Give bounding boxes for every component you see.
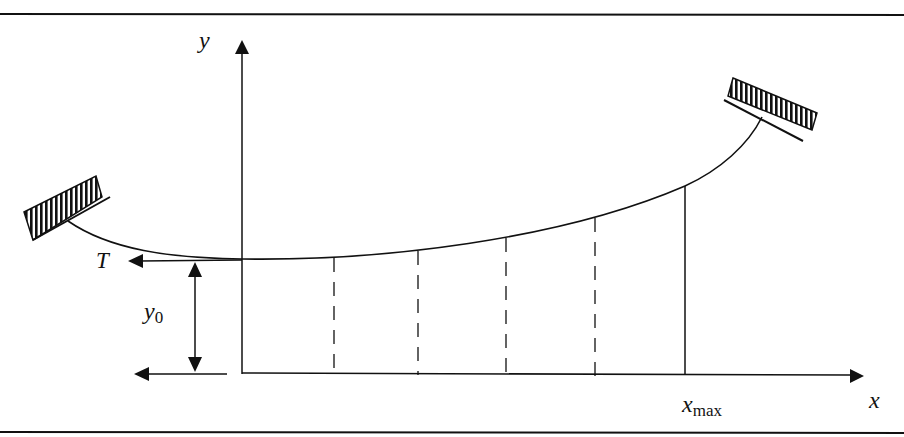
xmax-label: xmax: [681, 391, 722, 420]
y0-up-arrowhead-icon: [188, 262, 202, 277]
tension-arrowhead-icon: [128, 254, 143, 268]
catenary-diagram: y x T y0 xmax: [0, 0, 904, 437]
xmax-label-sub: max: [693, 401, 723, 420]
x-axis-arrowhead-icon: [850, 369, 864, 383]
y0-label: y0: [142, 298, 163, 327]
x-axis: [242, 369, 864, 383]
frame-bottom-line: [0, 432, 904, 433]
y-axis-label: y: [197, 27, 210, 53]
y0-label-sub: 0: [155, 308, 164, 327]
y0-down-arrowhead-icon: [188, 357, 202, 372]
y0-dimension-arrow: [188, 262, 202, 372]
y-axis: [235, 40, 249, 374]
cable-curve: [68, 117, 762, 259]
frame-top-line: [0, 14, 904, 15]
tension-label: T: [96, 248, 111, 273]
y-axis-arrowhead-icon: [235, 40, 249, 54]
left-support-clamp: [24, 176, 110, 240]
baseline-arrowhead-icon: [134, 367, 149, 381]
xmax-label-main: x: [681, 391, 693, 417]
x-axis-label: x: [868, 387, 880, 413]
y0-label-main: y: [142, 298, 155, 324]
dashed-ordinates: [334, 218, 595, 376]
baseline-reference-arrow: [134, 367, 227, 381]
right-support-clamp: [724, 78, 817, 141]
